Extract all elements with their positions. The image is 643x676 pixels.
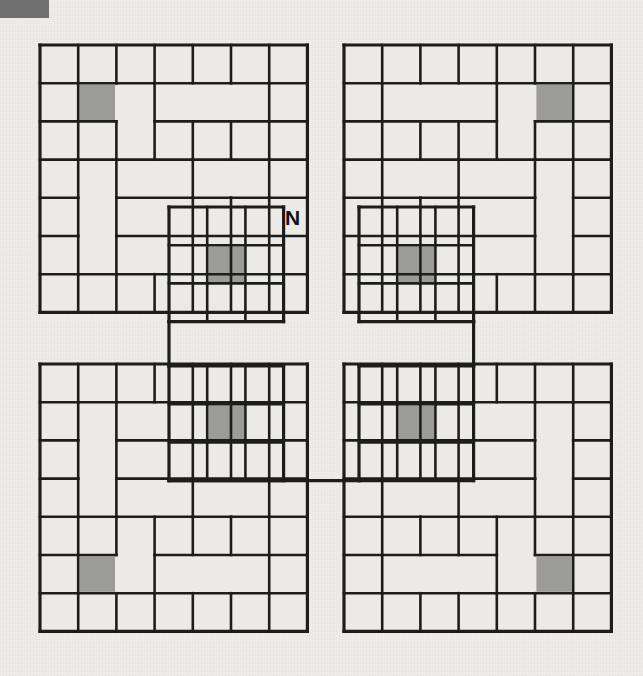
shaded-cell	[80, 556, 115, 591]
shaded-cell	[209, 247, 244, 282]
shaded-cell	[536, 556, 571, 591]
shaded-cell	[209, 406, 244, 441]
shaded-cell	[536, 85, 571, 120]
shaded-cell	[80, 85, 115, 120]
north-label: N	[285, 207, 300, 228]
shaded-cell	[399, 406, 434, 441]
shaded-cells-layer	[40, 45, 611, 631]
maze-figure-page: N	[0, 0, 643, 676]
maze-drawing	[0, 0, 643, 676]
shaded-cell	[399, 247, 434, 282]
